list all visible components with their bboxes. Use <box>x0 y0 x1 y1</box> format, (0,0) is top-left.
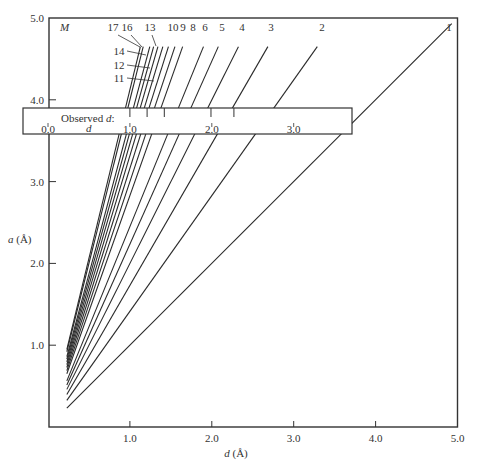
y-axis-label: a (Å) <box>8 233 32 246</box>
m-label-3: 3 <box>268 21 274 33</box>
x-tick-label: 4.0 <box>369 432 383 444</box>
observed-scale-tick-label: 2.0 <box>205 123 219 135</box>
m-label-17: 17 <box>108 21 120 33</box>
leader-line <box>152 35 156 46</box>
m-line-8 <box>67 47 183 374</box>
m-label-10: 10 <box>168 21 180 33</box>
m-line-14 <box>67 47 150 357</box>
m-label-8: 8 <box>190 21 196 33</box>
cubic-indexing-chart: 1.02.03.04.05.01.02.03.04.05.0d (Å)a (Å)… <box>0 0 478 468</box>
y-tick-label: 1.0 <box>30 339 44 351</box>
m-label-12: 12 <box>114 59 125 71</box>
m-line-1 <box>67 24 452 408</box>
m-line-16 <box>67 47 143 352</box>
x-tick-label: 5.0 <box>451 432 465 444</box>
m-line-3 <box>67 47 268 395</box>
m-label-4: 4 <box>239 21 245 33</box>
observed-scale-tick-label: 0.0 <box>41 123 55 135</box>
m-label-14: 14 <box>114 45 126 57</box>
y-tick-label: 3.0 <box>30 176 44 188</box>
x-tick-label: 3.0 <box>287 432 301 444</box>
y-tick-label: 5.0 <box>30 12 44 24</box>
observed-scale-tick-label: 1.0 <box>123 123 137 135</box>
m-label-11: 11 <box>114 72 125 84</box>
m-line-5 <box>67 47 218 385</box>
m-line-13 <box>67 47 154 360</box>
observed-scale-tick-label: 3.0 <box>287 123 301 135</box>
m-line-9 <box>67 47 175 371</box>
m-label-9: 9 <box>180 21 186 33</box>
m-label-2: 2 <box>319 21 325 33</box>
m-label-1: 1 <box>446 21 452 33</box>
leader-line <box>127 51 146 55</box>
m-line-11 <box>67 47 163 365</box>
y-tick-label: 4.0 <box>30 94 44 106</box>
y-tick-label: 2.0 <box>30 257 44 269</box>
observed-d-axis-label: d <box>86 122 92 134</box>
legend-m-label: M <box>59 21 70 33</box>
m-label-16: 16 <box>122 21 134 33</box>
m-line-10 <box>67 47 169 368</box>
x-tick-label: 1.0 <box>123 432 137 444</box>
x-axis-label: d (Å) <box>224 447 248 460</box>
m-label-6: 6 <box>202 21 208 33</box>
m-label-13: 13 <box>145 21 157 33</box>
m-line-6 <box>67 47 204 381</box>
m-label-5: 5 <box>219 21 225 33</box>
x-tick-label: 2.0 <box>205 432 219 444</box>
